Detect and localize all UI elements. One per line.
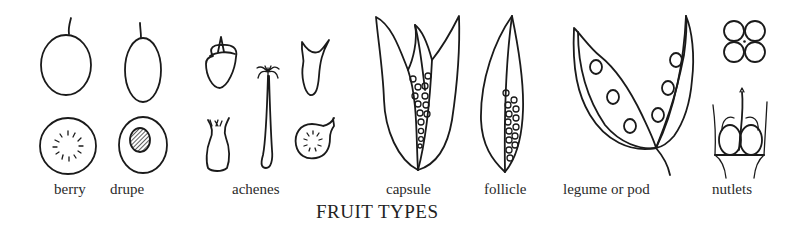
follicle-illustration [481, 16, 523, 172]
achene-round-beaked-icon [296, 118, 334, 158]
diagram-title: FRUIT TYPES [316, 202, 439, 221]
drupe-cross-section-icon [119, 117, 167, 173]
label-legume: legume or pod [563, 182, 650, 197]
achenes-illustration [206, 37, 334, 171]
achene-horned-icon [302, 40, 329, 95]
legume-illustration [574, 16, 694, 175]
drupe-illustration [119, 23, 167, 173]
label-achenes: achenes [232, 182, 279, 197]
achene-dandelion-icon [257, 66, 279, 168]
achene-crowned-icon [207, 118, 229, 171]
berry-cross-section-icon [40, 118, 96, 174]
drupe-whole-icon [125, 23, 161, 102]
label-capsule: capsule [386, 182, 431, 197]
fruit-types-diagram: berry drupe achenes capsule follicle leg… [0, 0, 806, 227]
label-berry: berry [54, 182, 86, 197]
capsule-illustration [376, 16, 459, 170]
berry-illustration [40, 18, 96, 174]
berry-whole-icon [41, 18, 91, 95]
label-nutlets: nutlets [712, 182, 752, 197]
achene-strawberry-icon [206, 37, 236, 88]
label-drupe: drupe [110, 182, 144, 197]
label-follicle: follicle [484, 182, 526, 197]
nutlets-top-view-icon [724, 21, 765, 62]
nutlets-illustration [713, 21, 767, 178]
nutlets-side-view-icon [713, 88, 767, 178]
